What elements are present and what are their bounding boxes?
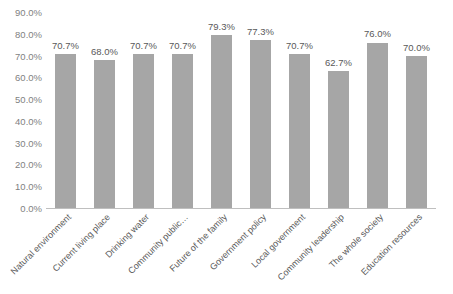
bar-chart: 90.0%80.0%70.0%60.0%50.0%40.0%30.0%20.0%…: [0, 0, 453, 294]
x-axis-category-labels: Natural environmentCurrent living placeD…: [0, 0, 453, 294]
